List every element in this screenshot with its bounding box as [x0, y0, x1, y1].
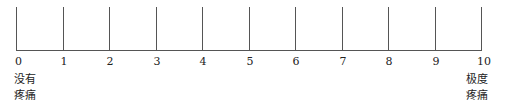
- tick-label: 8: [386, 56, 393, 68]
- extreme-pain-label-line2: 疼痛: [466, 88, 488, 104]
- tick-label: 0: [15, 56, 22, 68]
- tick-label: 9: [433, 56, 440, 68]
- tick-mark: [295, 7, 296, 51]
- tick-label: 7: [340, 56, 347, 68]
- tick-mark: [63, 7, 64, 51]
- tick-mark: [16, 7, 17, 51]
- tick-mark: [202, 7, 203, 51]
- tick-label: 6: [293, 56, 300, 68]
- tick-label: 2: [107, 56, 114, 68]
- tick-mark: [249, 7, 250, 51]
- tick-label: 10: [477, 56, 491, 68]
- tick-label: 3: [154, 56, 161, 68]
- no-pain-label-line1: 没有: [14, 72, 36, 88]
- tick-mark: [481, 7, 482, 51]
- no-pain-label-line2: 疼痛: [14, 88, 36, 104]
- no-pain-label: 没有 疼痛: [14, 72, 36, 104]
- tick-mark: [388, 7, 389, 51]
- pain-rating-scale: 没有 疼痛 极度 疼痛 012345678910: [0, 0, 510, 105]
- tick-mark: [109, 7, 110, 51]
- tick-label: 5: [247, 56, 254, 68]
- tick-mark: [342, 7, 343, 51]
- tick-mark: [435, 7, 436, 51]
- tick-label: 1: [61, 56, 68, 68]
- tick-label: 4: [200, 56, 207, 68]
- extreme-pain-label-line1: 极度: [466, 72, 488, 88]
- tick-mark: [156, 7, 157, 51]
- extreme-pain-label: 极度 疼痛: [466, 72, 488, 104]
